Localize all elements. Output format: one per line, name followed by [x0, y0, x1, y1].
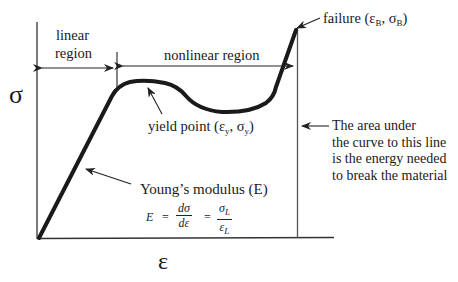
energy-note-line2: the curve to this line [332, 135, 447, 152]
eq-lhs: E [146, 210, 153, 225]
eq-frac1-num: dσ [176, 201, 192, 216]
failure-close: ) [403, 10, 408, 26]
failure-arrow [297, 18, 320, 28]
energy-note-line1: The area under [332, 118, 447, 135]
failure-sep: , [381, 10, 388, 26]
eq-equals-1: = [162, 210, 169, 225]
yield-point-arrow [148, 88, 162, 114]
youngs-modulus-arrow [86, 169, 131, 184]
energy-note-line4: to break the material [332, 168, 447, 185]
eq-frac2-num: σL [217, 201, 232, 220]
linear-region-label-line2: region [55, 45, 92, 61]
x-axis [37, 238, 334, 239]
eq-fraction-derivative: dσ dε [176, 201, 192, 230]
eq-equals-2: = [204, 210, 211, 225]
yield-sep: , [229, 118, 236, 134]
nonlinear-region-label: nonlinear region [164, 47, 259, 63]
yield-text: yield point ( [148, 118, 219, 134]
eq-frac2-den: εL [217, 220, 232, 238]
yield-point-label: yield point (εy, σy) [148, 118, 254, 139]
x-axis-label: ε [158, 248, 168, 274]
eq-frac2-den-sub: L [224, 226, 229, 236]
failure-text: failure ( [323, 10, 369, 26]
stress-strain-diagram: σ ε linear region nonlinear region failu… [0, 0, 458, 282]
linear-region-label-line1: linear [56, 27, 89, 43]
eq-frac1-den: dε [176, 216, 192, 230]
eq-fraction-linear: σL εL [217, 201, 232, 238]
yield-close: ) [249, 118, 254, 134]
y-axis-label: σ [9, 82, 23, 108]
failure-label: failure (εB, σB) [323, 10, 407, 31]
energy-note-line3: is the energy needed [332, 151, 447, 168]
eq-frac2-num-sub: L [225, 207, 230, 217]
youngs-modulus-label: Young’s modulus (E) [140, 181, 268, 197]
yield-sig: σ [237, 118, 245, 134]
energy-note: The area under the curve to this line is… [332, 118, 447, 184]
